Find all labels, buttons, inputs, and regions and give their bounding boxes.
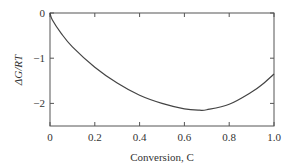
chart: 00.20.40.60.81.00−1−2 Conversion, C ΔG/R… <box>0 0 291 167</box>
x-tick-label: 0.8 <box>222 131 236 143</box>
x-axis-label: Conversion, C <box>130 151 194 163</box>
x-tick-label: 0.4 <box>133 131 147 143</box>
y-tick-label: 0 <box>40 7 46 19</box>
y-tick-label: −1 <box>33 52 45 64</box>
y-axis-label: ΔG/RT <box>12 54 24 86</box>
axis-ticks: 00.20.40.60.81.00−1−2 <box>33 7 281 143</box>
data-line <box>50 13 274 110</box>
plot-frame <box>50 13 274 126</box>
x-tick-label: 0.6 <box>178 131 192 143</box>
x-tick-label: 0 <box>47 131 53 143</box>
y-tick-label: −2 <box>33 97 45 109</box>
x-tick-label: 1.0 <box>267 131 281 143</box>
x-tick-label: 0.2 <box>88 131 102 143</box>
